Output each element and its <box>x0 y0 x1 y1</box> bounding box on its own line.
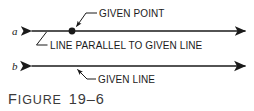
given-line-label: GIVEN LINE <box>98 74 155 85</box>
figure-caption-initial: F <box>8 91 18 107</box>
line-parallel-leader-path <box>37 32 48 45</box>
line-a-label: a <box>12 25 18 37</box>
figure-caption: FIGURE19–6 <box>8 91 105 107</box>
figure-19-6: a GIVEN POINT LINE PARALLEL TO GIVEN LIN… <box>0 0 254 111</box>
given-line-leader-path <box>78 70 97 80</box>
line-b-label: b <box>12 60 18 72</box>
given-point-label: GIVEN POINT <box>99 8 165 19</box>
line-parallel-leader <box>37 32 48 45</box>
figure-caption-word: IGURE <box>18 93 62 107</box>
given-point-dot <box>69 28 76 35</box>
given-point-leader-path <box>77 13 98 27</box>
figure-caption-number: 19–6 <box>69 91 105 107</box>
line-parallel-label: LINE PARALLEL TO GIVEN LINE <box>50 40 203 51</box>
given-point-leader <box>77 13 98 27</box>
diagram-canvas: a GIVEN POINT LINE PARALLEL TO GIVEN LIN… <box>0 0 254 111</box>
given-line-leader <box>78 70 97 80</box>
